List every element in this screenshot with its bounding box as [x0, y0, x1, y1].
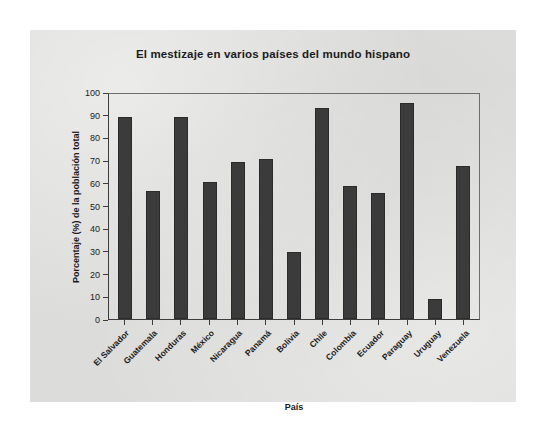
y-axis-tick-label: 40 — [90, 224, 100, 234]
x-axis-ticks — [108, 320, 480, 325]
x-axis-tick-mark — [294, 320, 295, 325]
x-axis-tick-label: Chile — [308, 328, 330, 350]
y-axis-tick: 40 — [90, 224, 108, 234]
x-axis-tick — [308, 320, 336, 325]
x-axis-tick — [223, 320, 251, 325]
y-axis: 1009080706050403020100 — [70, 93, 108, 320]
y-axis-tick: 90 — [90, 111, 108, 121]
x-axis-label-slot: Ecuador — [365, 326, 393, 396]
x-axis-label-slot: Nicaragua — [223, 326, 251, 396]
bar-slot — [167, 94, 195, 319]
y-axis-tick: 10 — [90, 292, 108, 302]
bar-slot — [111, 94, 139, 319]
x-axis-tick — [421, 320, 449, 325]
bar[interactable] — [343, 186, 357, 319]
x-axis-tick-mark — [378, 320, 379, 325]
x-axis-tick — [337, 320, 365, 325]
bar[interactable] — [146, 191, 160, 319]
y-axis-tick-label: 20 — [90, 270, 100, 280]
x-axis-tick — [110, 320, 138, 325]
x-axis-tick-mark — [124, 320, 125, 325]
bar[interactable] — [456, 166, 470, 319]
bar[interactable] — [400, 103, 414, 319]
plot-area — [108, 93, 480, 320]
bar-slot — [139, 94, 167, 319]
bar-slot — [252, 94, 280, 319]
y-axis-tick: 70 — [90, 156, 108, 166]
x-axis-tick-mark — [350, 320, 351, 325]
x-axis-tick-mark — [209, 320, 210, 325]
bar[interactable] — [174, 117, 188, 320]
y-axis-tick-label: 50 — [90, 202, 100, 212]
y-axis-tick-label: 100 — [85, 88, 100, 98]
y-axis-title-container: Porcentaje (%) de la población total — [48, 93, 68, 320]
y-axis-tick-label: 30 — [90, 247, 100, 257]
x-axis-label-slot: Chile — [308, 326, 336, 396]
x-axis-tick-mark — [180, 320, 181, 325]
x-axis-tick-mark — [407, 320, 408, 325]
x-axis-tick-mark — [152, 320, 153, 325]
y-axis-tick-label: 0 — [95, 315, 100, 325]
bar-slot — [449, 94, 477, 319]
y-axis-tick: 30 — [90, 247, 108, 257]
x-axis-tick — [252, 320, 280, 325]
x-axis-label-slot: Bolivia — [280, 326, 308, 396]
y-axis-tick: 0 — [95, 315, 108, 325]
bar-slot — [280, 94, 308, 319]
x-axis-label-slot: Paraguay — [393, 326, 421, 396]
chart-title: El mestizaje en varios países del mundo … — [30, 48, 516, 60]
x-axis-label-slot: Venezuela — [450, 326, 478, 396]
y-axis-tick-label: 70 — [90, 156, 100, 166]
x-axis-tick — [195, 320, 223, 325]
bar[interactable] — [287, 252, 301, 320]
y-axis-tick: 50 — [90, 202, 108, 212]
bar-slot — [336, 94, 364, 319]
chart-figure: El mestizaje en varios países del mundo … — [30, 30, 516, 402]
x-axis-tick — [365, 320, 393, 325]
bar[interactable] — [203, 182, 217, 319]
bar[interactable] — [315, 108, 329, 320]
x-axis-tick — [280, 320, 308, 325]
bar[interactable] — [428, 299, 442, 319]
bar-slot — [393, 94, 421, 319]
x-axis-tick — [138, 320, 166, 325]
y-axis-tick-label: 10 — [90, 292, 100, 302]
x-axis-tick-mark — [237, 320, 238, 325]
bar-slot — [308, 94, 336, 319]
bar[interactable] — [231, 162, 245, 320]
y-axis-tick-label: 60 — [90, 179, 100, 189]
x-axis-labels: El SalvadorGuatemalaHondurasMéxicoNicara… — [108, 326, 480, 396]
bar-slot — [421, 94, 449, 319]
y-axis-tick-label: 90 — [90, 111, 100, 121]
x-axis-label-slot: Guatemala — [138, 326, 166, 396]
x-axis-label-slot: Uruguay — [421, 326, 449, 396]
bar-series — [109, 94, 479, 319]
y-axis-tick-label: 80 — [90, 133, 100, 143]
y-axis-tick: 60 — [90, 179, 108, 189]
y-axis-tick: 80 — [90, 133, 108, 143]
y-axis-tick: 100 — [85, 88, 108, 98]
x-axis-tick — [167, 320, 195, 325]
x-axis-label-slot: México — [195, 326, 223, 396]
bar[interactable] — [118, 117, 132, 320]
bar-slot — [224, 94, 252, 319]
bar[interactable] — [371, 193, 385, 319]
bar-slot — [195, 94, 223, 319]
x-axis-label-slot: Colombia — [337, 326, 365, 396]
x-axis-tick — [450, 320, 478, 325]
x-axis-label-slot: Honduras — [167, 326, 195, 396]
x-axis-tick — [393, 320, 421, 325]
x-axis-tick-mark — [463, 320, 464, 325]
bar-slot — [364, 94, 392, 319]
y-axis-tick: 20 — [90, 270, 108, 280]
x-axis-tick-mark — [322, 320, 323, 325]
x-axis-tick-mark — [435, 320, 436, 325]
x-axis-tick-mark — [265, 320, 266, 325]
x-axis-label-slot: Panamá — [252, 326, 280, 396]
x-axis-title: País — [108, 402, 480, 412]
bar[interactable] — [259, 159, 273, 319]
